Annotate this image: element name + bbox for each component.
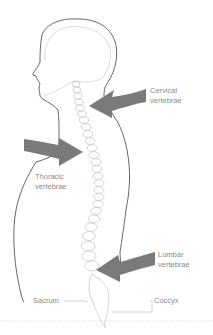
cervical-label: Cervical vertebrae [150, 86, 182, 106]
coccyx-leader-line [112, 301, 152, 312]
skull-inner-outline [44, 27, 111, 96]
lumbar-arrow-icon [96, 252, 155, 282]
sacrum-label: Sacrum [33, 296, 59, 306]
thoracic-label: Thoracic vertebrae [35, 172, 67, 192]
spine-diagram: Cervical vertebrae Thoracic vertebrae Lu… [0, 0, 213, 335]
sacrum-leader-line [64, 301, 88, 303]
cervical-arrow-icon [89, 89, 146, 118]
vertebrae-column [72, 81, 109, 328]
coccyx-label: Coccyx [154, 296, 179, 306]
lumbar-label: Lumbar vertebrae [158, 250, 190, 270]
spine-illustration [0, 0, 213, 335]
thoracic-arrow-icon [24, 138, 83, 166]
back-outline [14, 162, 36, 302]
